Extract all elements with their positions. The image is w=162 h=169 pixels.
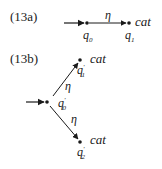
state-q1-label: q1: [125, 28, 135, 44]
diagram-13b: [26, 58, 82, 144]
state-q1prime-output: cat: [90, 51, 106, 67]
state-q2prime-label: q′2: [77, 145, 85, 161]
state-q1prime-node: [78, 58, 82, 62]
transition-label-eta-lower: η: [71, 112, 77, 127]
state-q2prime-output: cat: [90, 132, 106, 148]
state-q0-label: q0: [83, 28, 93, 44]
state-q0-node: [85, 21, 89, 25]
transition-label-eta-upper: η: [65, 79, 71, 94]
transition-label-eta-13a: η: [105, 8, 111, 23]
state-q0prime-node: [45, 100, 49, 104]
state-q1-node: [127, 21, 131, 25]
state-q1prime-label: q′1: [77, 63, 85, 79]
state-q2prime-node: [78, 140, 82, 144]
state-q0-output: cat: [135, 14, 151, 30]
diagram-13a: [64, 21, 131, 25]
state-q0prime-label: q′0: [58, 96, 66, 112]
